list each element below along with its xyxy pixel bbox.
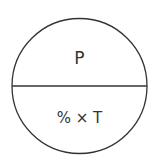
top-label: P [74,48,84,68]
formula-circle-diagram: P % × T [0,0,156,162]
bottom-label: % × T [57,109,103,127]
